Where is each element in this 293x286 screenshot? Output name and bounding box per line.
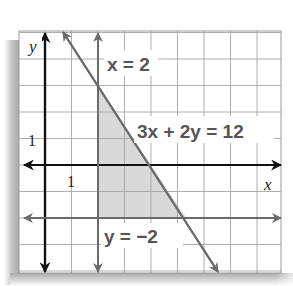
x-axis-label: x [263, 175, 272, 194]
x-tick-label: 1 [67, 173, 75, 190]
label-y-equals-neg2: y = −2 [104, 226, 158, 247]
graph-figure: y x 1 1 x = 2 3x + 2y = 12 y = −2 [0, 0, 293, 286]
y-tick-label: 1 [28, 132, 36, 149]
y-axis-label: y [27, 37, 37, 56]
label-x-equals-2: x = 2 [107, 54, 150, 75]
shadow-left [4, 40, 19, 285]
label-3x-plus-2y-equals-12: 3x + 2y = 12 [137, 121, 244, 142]
